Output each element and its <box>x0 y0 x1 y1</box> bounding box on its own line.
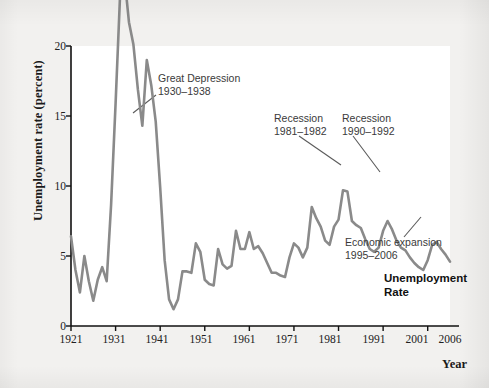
y-tick-label-15: 15 <box>42 110 66 122</box>
x-tick-label-1951: 1951 <box>179 333 223 345</box>
x-tick-label-1921: 1921 <box>49 333 93 345</box>
y-axis-title: Unemployment rate (percent) <box>31 31 46 251</box>
x-tick-label-1971: 1971 <box>265 333 309 345</box>
y-tick-label-10: 10 <box>42 180 66 192</box>
series-title: Unemployment Rate <box>384 272 489 299</box>
unemployment-rate-line <box>71 0 450 309</box>
x-axis-title: Year <box>442 357 467 372</box>
x-tick-label-2006: 2006 <box>428 333 472 345</box>
annotation-great-depression: Great Depression 1930–1938 <box>158 72 240 97</box>
y-tick-label-20: 20 <box>42 40 66 52</box>
y-tick-label-5: 5 <box>42 250 66 262</box>
y-tick-label-0: 0 <box>42 320 66 332</box>
x-tick-label-1961: 1961 <box>222 333 266 345</box>
x-tick-label-1931: 1931 <box>92 333 136 345</box>
x-tick-label-1941: 1941 <box>135 333 179 345</box>
chart-svg <box>0 0 489 388</box>
annotation-recession-1981-1982: Recession 1981–1982 <box>274 112 327 137</box>
annotation-economic-expansion: Economic expansion 1995–2006 <box>345 236 442 261</box>
x-tick-label-1981: 1981 <box>308 333 352 345</box>
annotation-recession-1990-1992: Recession 1990–1992 <box>342 112 395 137</box>
x-tick-label-1991: 1991 <box>352 333 396 345</box>
figure-container: Unemployment rate (percent) 20 15 10 5 0… <box>0 0 489 388</box>
